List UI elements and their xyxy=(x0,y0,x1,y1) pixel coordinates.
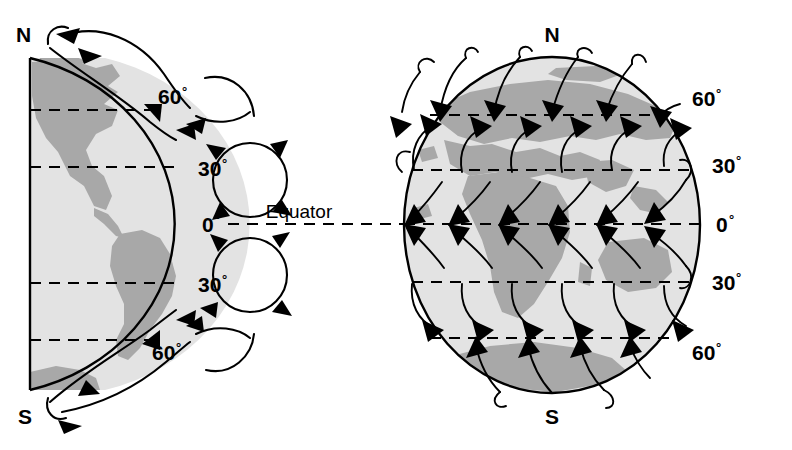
svg-text:°: ° xyxy=(215,212,220,227)
svg-text:30: 30 xyxy=(712,154,735,177)
svg-text:°: ° xyxy=(176,340,181,355)
svg-text:°: ° xyxy=(716,340,721,355)
svg-text:30: 30 xyxy=(198,157,221,180)
left-globe-north-label: N xyxy=(16,23,31,46)
svg-text:°: ° xyxy=(222,156,227,171)
svg-text:°: ° xyxy=(182,84,187,99)
svg-text:°: ° xyxy=(729,212,734,227)
svg-text:0: 0 xyxy=(202,213,214,236)
right-globe-north-label: N xyxy=(544,23,559,46)
svg-text:°: ° xyxy=(736,153,741,168)
svg-text:°: ° xyxy=(736,270,741,285)
circulation-diagram: N S 60 ° 30 ° 0 ° 30 ° 60 ° Equator xyxy=(0,0,792,450)
svg-text:60: 60 xyxy=(692,341,715,364)
right-globe-south-label: S xyxy=(545,405,559,428)
svg-text:0: 0 xyxy=(716,213,728,236)
equator-label: Equator xyxy=(266,201,333,222)
svg-text:30: 30 xyxy=(712,271,735,294)
svg-text:°: ° xyxy=(222,272,227,287)
svg-text:30: 30 xyxy=(198,273,221,296)
svg-text:°: ° xyxy=(716,86,721,101)
svg-text:60: 60 xyxy=(152,341,175,364)
svg-text:60: 60 xyxy=(692,87,715,110)
left-globe-south-label: S xyxy=(18,405,32,428)
svg-text:60: 60 xyxy=(158,85,181,108)
